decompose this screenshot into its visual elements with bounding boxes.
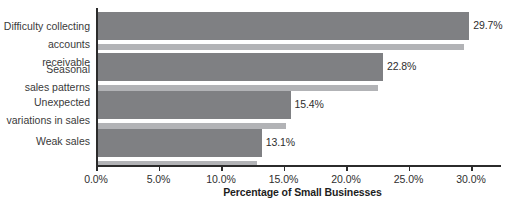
x-axis-tick-label: 0.0%	[84, 173, 108, 185]
value-label-0: 29.7%	[473, 19, 502, 31]
x-axis-tick-label: 30.0%	[456, 173, 485, 185]
x-axis-tick	[159, 166, 161, 171]
bar-2[interactable]	[98, 91, 291, 119]
x-axis-tick-label: 5.0%	[147, 173, 171, 185]
category-label-1: Seasonal sales patterns	[0, 59, 90, 95]
x-axis-tick-label: 10.0%	[206, 173, 235, 185]
x-axis-tick	[96, 166, 98, 171]
bar-0[interactable]	[98, 12, 469, 40]
value-label-1: 22.8%	[387, 60, 416, 72]
x-axis-tick	[284, 166, 286, 171]
x-axis-tick	[409, 166, 411, 171]
x-axis-tick	[471, 166, 473, 171]
bar-3[interactable]	[98, 129, 262, 157]
x-axis-tick	[346, 166, 348, 171]
category-label-text: Weak sales	[36, 135, 90, 147]
category-label-text: Unexpected variations in sales	[7, 96, 90, 126]
category-label-3: Weak sales	[0, 131, 90, 149]
x-axis-title-text: Percentage of Small Businesses	[127, 186, 382, 198]
x-axis-tick-label: 20.0%	[331, 173, 360, 185]
value-label-3: 13.1%	[266, 136, 295, 148]
x-axis-line	[96, 165, 501, 167]
plot-area	[96, 8, 501, 165]
x-axis-title: Percentage of Small Businesses	[0, 186, 509, 198]
bar-1[interactable]	[98, 53, 383, 81]
value-label-2: 15.4%	[295, 98, 324, 110]
x-axis-tick-label: 25.0%	[394, 173, 423, 185]
bar-shadow-0	[98, 44, 464, 50]
x-axis-tick	[221, 166, 223, 171]
bar-chart: Difficulty collecting accounts receivabl…	[0, 0, 509, 204]
category-label-2: Unexpected variations in sales	[0, 92, 90, 128]
x-axis-tick-label: 15.0%	[269, 173, 298, 185]
category-label-text: Seasonal sales patterns	[25, 63, 90, 93]
